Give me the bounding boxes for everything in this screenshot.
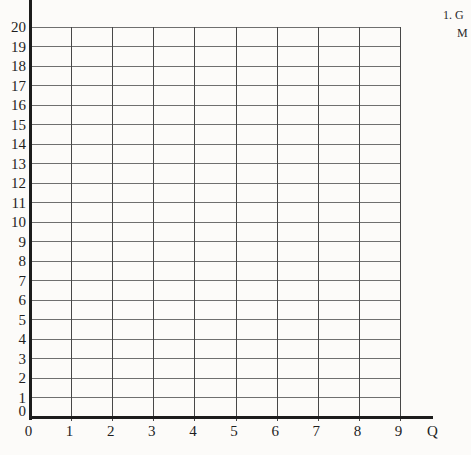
y-tick-label: 17 [0,77,26,95]
y-tick-label: 13 [0,155,26,173]
v-gridline [359,27,360,421]
h-gridline [30,163,401,164]
h-gridline [30,105,401,106]
x-tick-label: 3 [137,423,167,439]
y-tick-label: 5 [0,311,26,329]
v-gridline [400,27,401,421]
y-tick-label: 1 [0,389,26,407]
h-gridline [30,300,401,301]
x-tick-label: 6 [260,423,290,439]
h-gridline [30,27,401,28]
y-tick-label: 8 [0,252,26,270]
v-gridline [236,27,237,421]
h-gridline [30,319,401,320]
h-gridline [30,85,401,86]
v-gridline [71,27,72,421]
y-tick-label: 10 [0,213,26,231]
worksheet-page: 0123456789101112131415161718192001234567… [0,0,471,455]
h-gridline [30,241,401,242]
y-tick-label: 14 [0,135,26,153]
y-tick-label: 11 [0,194,26,212]
y-tick-label: 7 [0,272,26,290]
h-gridline [30,202,401,203]
h-gridline [30,46,401,47]
h-gridline [30,358,401,359]
y-tick-label: 4 [0,330,26,348]
v-gridline [277,27,278,421]
h-gridline [30,222,401,223]
y-tick-label: 18 [0,57,26,75]
x-tick-label: 4 [178,423,208,439]
y-tick-label: 6 [0,291,26,309]
h-gridline [30,66,401,67]
h-gridline [30,339,401,340]
x-axis-unit-label: Q [418,423,448,439]
h-gridline [30,124,401,125]
y-tick-label: 19 [0,38,26,56]
x-tick-label: 2 [96,423,126,439]
x-axis [29,416,433,419]
v-gridline [318,27,319,421]
y-tick-label: 2 [0,369,26,387]
v-gridline [112,27,113,421]
y-axis [29,0,32,420]
y-tick-label: 20 [0,18,26,36]
x-tick-label: 8 [342,423,372,439]
h-gridline [30,144,401,145]
exercise-text-line2: M [457,26,468,40]
x-tick-label: 0 [14,423,44,439]
y-tick-label: 9 [0,233,26,251]
h-gridline [30,261,401,262]
h-gridline [30,378,401,379]
exercise-text-line1: 1. G [443,8,464,22]
x-tick-label: 7 [301,423,331,439]
y-tick-label: 12 [0,174,26,192]
h-gridline [30,183,401,184]
x-tick-label: 5 [219,423,249,439]
v-gridline [153,27,154,421]
h-gridline [30,280,401,281]
y-tick-label: 16 [0,96,26,114]
v-gridline [194,27,195,421]
h-gridline [30,397,401,398]
x-tick-label: 1 [55,423,85,439]
y-tick-label: 15 [0,116,26,134]
y-tick-label: 3 [0,350,26,368]
x-tick-label: 9 [384,423,414,439]
